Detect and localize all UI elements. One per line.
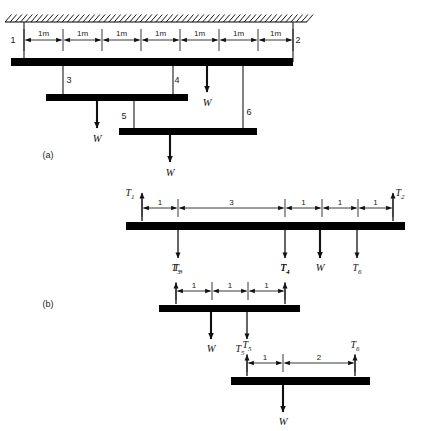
- node-label-1: 1: [10, 35, 15, 45]
- hatch-stroke: [177, 15, 184, 23]
- top-beam: [11, 58, 293, 66]
- panel-a-dim-label-5: 1m: [233, 29, 244, 38]
- fbd-beam-1-reaction-label-0: T1: [125, 187, 134, 201]
- hatch-stroke: [73, 15, 80, 23]
- hatch-stroke: [99, 15, 106, 23]
- hatch-stroke: [234, 15, 241, 23]
- hatch-stroke: [5, 15, 12, 23]
- hatch-stroke: [301, 15, 308, 23]
- load-w-lower-label: W: [166, 167, 176, 178]
- hatch-stroke: [187, 15, 194, 23]
- fbd-beam-1-dim-label-0: 1: [158, 198, 163, 207]
- panel-a-dim-label-6: 1m: [270, 29, 281, 38]
- hatch-stroke: [88, 15, 95, 23]
- hatch-stroke: [57, 15, 64, 23]
- fbd-beam-1-force-label-2: W: [316, 262, 326, 273]
- node-label-4: 4: [174, 75, 179, 85]
- panel-a-beams: [11, 58, 293, 135]
- hatch-stroke: [182, 15, 189, 23]
- fbd-beam-1-dim-label-2: 1: [301, 198, 306, 207]
- hatch-stroke: [239, 15, 246, 23]
- panel-caption-b: (b): [43, 299, 54, 309]
- hatch-stroke: [15, 15, 22, 23]
- fbd-beam-3-reaction-label-1: T6: [350, 339, 360, 353]
- hatch-stroke: [83, 15, 90, 23]
- hatch-stroke: [270, 15, 277, 23]
- figure-root: 1m1m1m1m1m1m1m123456WWW T1T213111T3T4WT6…: [0, 0, 423, 431]
- load-w-middle-label: W: [93, 133, 103, 144]
- hatch-stroke: [125, 15, 132, 23]
- panel-captions-group: (a)(b): [43, 150, 54, 309]
- fbd-beam-1-dim-label-4: 1: [373, 198, 378, 207]
- fbd-beam-1: [126, 222, 405, 230]
- hatch-stroke: [156, 15, 163, 23]
- hatch-stroke: [255, 15, 262, 23]
- fbd-beam-1-force-label-3: T6: [352, 262, 362, 276]
- fbd-beam-2: [159, 305, 300, 312]
- hatch-stroke: [62, 15, 68, 23]
- hatch-stroke: [21, 15, 28, 23]
- panel-a-hangers: [24, 22, 293, 131]
- fbd-beam-2-dim-label-1: 1: [228, 281, 233, 290]
- hatch-stroke: [291, 15, 298, 23]
- hatch-stroke: [104, 15, 111, 23]
- hatch-stroke: [10, 15, 17, 23]
- node-label-5: 5: [121, 111, 126, 121]
- panel-a-dimension-chain: 1m1m1m1m1m1m1m: [24, 29, 293, 51]
- fbd-beam-2-force-label-0: W: [207, 343, 217, 354]
- fbd-beam-3-dim-label-0: 1: [263, 353, 268, 362]
- hatch-stroke: [140, 15, 147, 23]
- hatch-stroke: [109, 15, 116, 23]
- hatch-stroke: [52, 15, 59, 23]
- hatch-stroke: [135, 15, 142, 23]
- hatch-stroke: [275, 15, 282, 23]
- panel-a-dim-label-0: 1m: [38, 29, 49, 38]
- fbd-beam-3-group: T5T612W: [231, 339, 370, 427]
- hatch-stroke: [281, 15, 288, 23]
- fbd-beam-2-dim-label-0: 1: [192, 281, 197, 290]
- panel-caption-a: (a): [43, 150, 54, 160]
- hatch-stroke: [67, 15, 74, 23]
- node-label-6: 6: [246, 107, 251, 117]
- hatch-stroke: [208, 15, 215, 23]
- hatch-stroke: [26, 15, 33, 23]
- hatch-stroke: [161, 15, 168, 23]
- hatch-stroke: [244, 15, 251, 23]
- ceiling-fixed-support: [5, 15, 313, 23]
- hatch-stroke: [114, 15, 121, 23]
- lower-beam: [119, 128, 257, 135]
- middle-beam: [46, 94, 188, 101]
- panel-a-node-labels: 123456: [10, 35, 300, 121]
- panel-a-dim-label-1: 1m: [77, 29, 88, 38]
- fbd-beam-2-dim-label-2: 1: [264, 281, 269, 290]
- hatch-stroke: [41, 15, 48, 23]
- node-label-3: 3: [66, 75, 71, 85]
- hatch-stroke: [296, 15, 303, 23]
- panel-a-dim-label-3: 1m: [155, 29, 166, 38]
- panel-a-dim-label-4: 1m: [194, 29, 205, 38]
- hatch-stroke: [93, 15, 100, 23]
- hatch-stroke: [218, 15, 225, 23]
- fbd-beam-2-reaction-label-1: T4: [280, 262, 290, 276]
- hatch-stroke: [249, 15, 256, 23]
- hatch-stroke: [307, 15, 314, 23]
- fbd-beam-1-reaction-label-1: T2: [395, 187, 405, 201]
- hatch-stroke: [286, 15, 293, 23]
- hatch-stroke: [119, 15, 126, 23]
- fbd-beam-2-group: T3T4111WT5: [159, 262, 300, 357]
- fbd-beam-1-dim-label-3: 1: [338, 198, 343, 207]
- hatch-stroke: [36, 15, 43, 23]
- hatch-stroke: [171, 15, 178, 23]
- hatch-stroke: [145, 15, 152, 23]
- hatch-stroke: [130, 15, 137, 23]
- fbd-beam-1-group: T1T213111T3T4WT6: [125, 187, 405, 276]
- load-w-top-label: W: [203, 97, 213, 108]
- hatch-stroke: [47, 15, 54, 23]
- fbd-beam-3-force-label-0: W: [279, 416, 289, 427]
- hatch-stroke: [213, 15, 220, 23]
- fbd-beam-3-dim-label-1: 2: [317, 353, 322, 362]
- hatch-stroke: [78, 15, 85, 23]
- hatch-stroke: [265, 15, 272, 23]
- fbd-beam-1-dim-label-1: 3: [229, 198, 234, 207]
- hatch-stroke: [31, 15, 38, 23]
